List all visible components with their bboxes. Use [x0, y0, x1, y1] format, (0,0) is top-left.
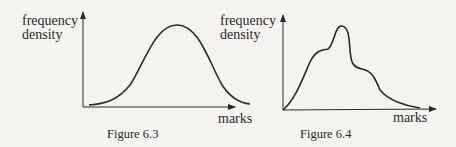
multimodal-curve: [283, 26, 420, 110]
figure-6-3-xlabel: marks: [218, 112, 252, 126]
figure-6-3-ylabel-line2: density: [22, 28, 62, 42]
figure-6-4-caption: Figure 6.4: [300, 127, 351, 142]
figure-6-4-ylabel-line1: frequency: [220, 14, 276, 28]
figure-6-3-ylabel-line1: frequency: [22, 14, 78, 28]
figure-6-4-ylabel-line2: density: [220, 28, 260, 42]
figure-6-4-plot: [283, 15, 436, 110]
figure-6-3-caption: Figure 6.3: [107, 127, 158, 142]
figure-6-4-xlabel: marks: [393, 111, 427, 125]
